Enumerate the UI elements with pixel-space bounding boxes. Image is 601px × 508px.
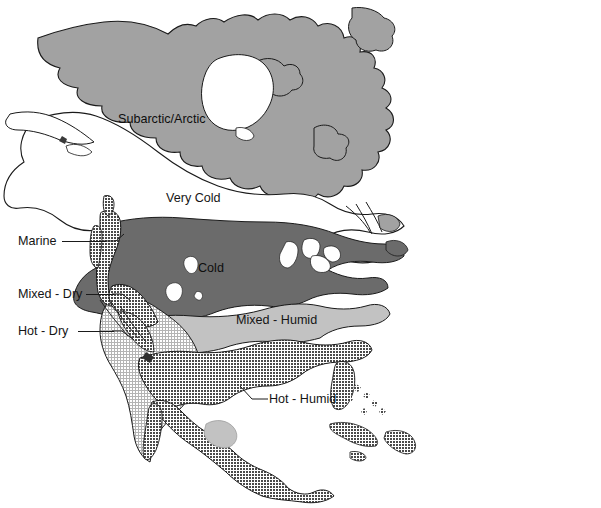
leader-line-marine xyxy=(62,241,106,242)
callout-label-hot-dry: Hot - Dry xyxy=(18,325,68,338)
leader-hook-marine xyxy=(104,228,128,254)
figure-3-20: FIGURE 3.20 The building science communi… xyxy=(0,0,601,508)
callout-label-hot-humid: Hot - Humid xyxy=(269,393,336,406)
zone-label-mixed-humid: Mixed - Humid xyxy=(236,314,317,327)
leader-hook-mixed-dry xyxy=(112,286,134,308)
leader-line-hot-humid xyxy=(238,382,270,404)
zone-label-subarctic-arctic: Subarctic/Arctic xyxy=(118,113,205,126)
zone-label-cold: Cold xyxy=(198,262,224,275)
map-svg xyxy=(0,0,601,508)
leader-hook-hot-dry xyxy=(112,324,138,348)
climate-zone-map xyxy=(0,0,601,508)
leader-line-hot-dry xyxy=(78,331,114,332)
callout-label-marine: Marine xyxy=(18,235,57,248)
zone-label-very-cold: Very Cold xyxy=(166,192,221,205)
leader-line-mixed-dry xyxy=(86,294,114,295)
callout-label-mixed-dry: Mixed - Dry xyxy=(18,288,82,301)
